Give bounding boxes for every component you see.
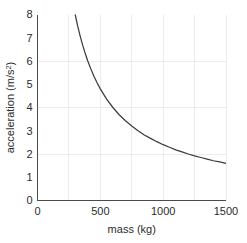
- x-axis-title: mass (kg): [108, 223, 156, 235]
- acceleration-vs-mass-chart: 012345678 050010001500 mass (kg) acceler…: [0, 0, 247, 243]
- chart-container: 012345678 050010001500 mass (kg) acceler…: [0, 0, 247, 243]
- y-tick-label: 2: [26, 148, 32, 160]
- y-axis-title-text: acceleration (m/s2): [4, 62, 17, 154]
- x-tick-label: 1000: [151, 205, 175, 217]
- y-axis-title-base: acceleration (m/s: [4, 69, 16, 153]
- y-tick-label: 1: [26, 171, 32, 183]
- y-axis-tick-labels: 012345678: [26, 8, 32, 206]
- y-tick-label: 6: [26, 55, 32, 67]
- y-tick-label: 5: [26, 78, 32, 90]
- y-tick-label: 4: [26, 101, 32, 113]
- y-tick-label: 7: [26, 32, 32, 44]
- x-tick-label: 0: [34, 205, 40, 217]
- y-tick-label: 8: [26, 8, 32, 20]
- y-axis-title-close-paren: ): [4, 62, 16, 66]
- x-tick-label: 500: [91, 205, 109, 217]
- x-tick-label: 1500: [214, 205, 238, 217]
- y-tick-label: 3: [26, 125, 32, 137]
- y-tick-label: 0: [26, 194, 32, 206]
- y-axis-title: acceleration (m/s2): [4, 62, 17, 154]
